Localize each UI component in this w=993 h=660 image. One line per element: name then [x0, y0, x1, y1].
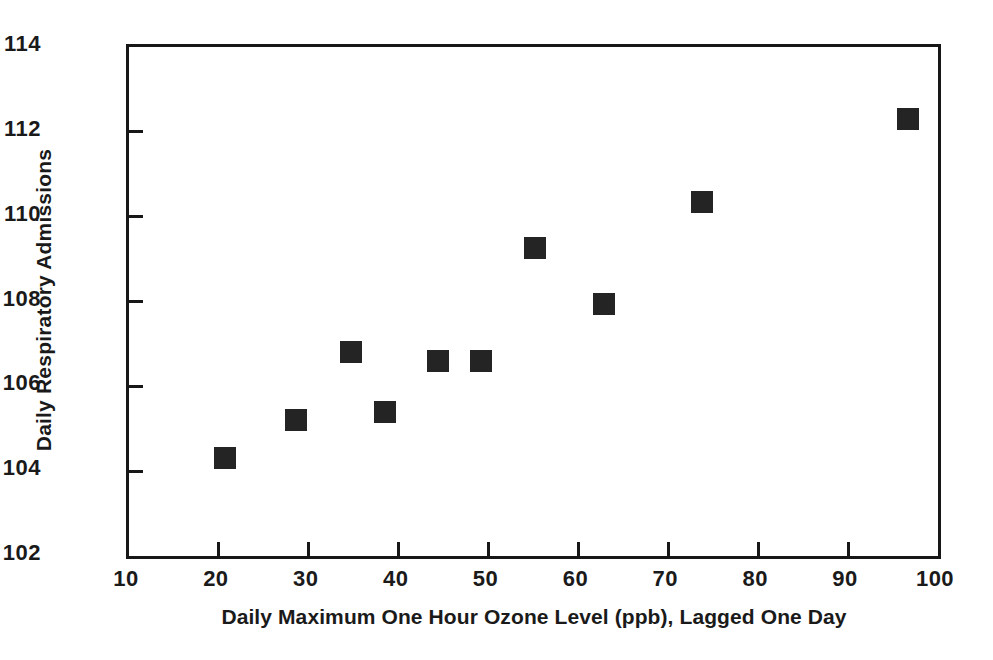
x-axis-tick-label: 80: [710, 566, 800, 592]
y-axis-tick-label: 114: [0, 31, 41, 57]
x-axis-tick-label: 100: [890, 566, 980, 592]
x-axis-tick-label: 40: [351, 566, 441, 592]
x-axis-tick: [847, 542, 850, 556]
y-axis-tick: [129, 300, 143, 303]
x-axis-tick: [217, 542, 220, 556]
x-axis-tick-label: 60: [530, 566, 620, 592]
plot-frame: [126, 44, 941, 559]
y-axis-tick: [129, 470, 143, 473]
y-axis-tick-label: 108: [0, 286, 41, 312]
x-axis-tick-label: 10: [81, 566, 171, 592]
y-axis-tick: [129, 385, 143, 388]
x-axis-tick: [757, 542, 760, 556]
x-axis-title: Daily Maximum One Hour Ozone Level (ppb)…: [126, 605, 942, 629]
y-axis-tick-label: 110: [0, 201, 41, 227]
data-point-marker: [524, 237, 546, 259]
y-axis-tick-label: 106: [0, 370, 41, 396]
data-point-marker: [593, 293, 615, 315]
x-axis-tick-label: 90: [800, 566, 890, 592]
scatter-plot-figure: Daily Respiratory Admissions Daily Maxim…: [0, 0, 993, 660]
data-point-marker: [214, 447, 236, 469]
x-axis-tick: [577, 542, 580, 556]
y-axis-tick: [129, 215, 143, 218]
plot-area: [129, 47, 938, 556]
x-axis-tick-label: 50: [441, 566, 531, 592]
y-axis-tick: [129, 130, 143, 133]
y-axis-tick-label: 104: [0, 455, 41, 481]
data-point-marker: [427, 350, 449, 372]
x-axis-tick-label: 30: [261, 566, 351, 592]
x-axis-tick-label: 70: [620, 566, 710, 592]
data-point-marker: [374, 401, 396, 423]
data-point-marker: [285, 409, 307, 431]
x-axis-tick: [307, 542, 310, 556]
x-axis-tick: [487, 542, 490, 556]
x-axis-tick: [667, 542, 670, 556]
x-axis-tick-label: 20: [171, 566, 261, 592]
y-axis-tick-label: 102: [0, 540, 41, 566]
y-axis-tick-label: 112: [0, 116, 41, 142]
data-point-marker: [470, 350, 492, 372]
x-axis-tick: [397, 542, 400, 556]
data-point-marker: [897, 108, 919, 130]
data-point-marker: [691, 191, 713, 213]
data-point-marker: [340, 341, 362, 363]
